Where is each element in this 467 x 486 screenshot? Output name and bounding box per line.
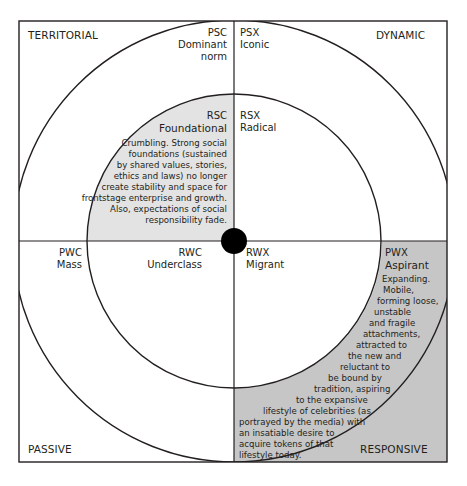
pwc-code: PWC (57, 247, 82, 259)
pwx-desc-line: portrayed by the media) with (239, 417, 365, 428)
pwx-desc-line: attracted to (356, 340, 407, 351)
pwx-desc-line: forming loose, (377, 296, 438, 307)
segment-rwx: RWX Migrant (246, 247, 284, 271)
rsc-code: RSC (159, 110, 227, 122)
pwx-desc-line: unstable (374, 307, 411, 318)
corner-responsive: RESPONSIVE (360, 443, 428, 455)
pwx-code: PWX (385, 247, 429, 259)
psc-name-1: Dominant (178, 39, 227, 51)
rsc-desc-line: Crumbling. Strong social (82, 138, 227, 149)
rsc-desc-line: ethics and laws) no longer (82, 171, 227, 182)
pwx-desc-line: reluctant to (340, 362, 390, 373)
pwx-desc-line: Expanding. (382, 274, 430, 285)
pwx-desc-line: and fragile (369, 318, 415, 329)
pwx-desc-line: be bound by (328, 373, 382, 384)
rsc-description: Crumbling. Strong social foundations (su… (82, 138, 227, 226)
corner-territorial: TERRITORIAL (28, 29, 98, 41)
rsx-name: Radical (240, 122, 276, 134)
rsc-desc-line: responsibility fade. (82, 215, 227, 226)
rwx-code: RWX (246, 247, 284, 259)
rwx-name: Migrant (246, 259, 284, 271)
pwx-desc-line: the new and (348, 351, 402, 362)
psx-code: PSX (240, 27, 269, 39)
segmentation-diagram (0, 0, 467, 486)
pwc-name: Mass (57, 259, 82, 271)
pwx-desc-line: Mobile, (383, 285, 414, 296)
psx-name: Iconic (240, 39, 269, 51)
segment-pwc: PWC Mass (57, 247, 82, 271)
rsc-desc-line: foundations (sustained (82, 149, 227, 160)
rsc-desc-line: create stability and space for (82, 182, 227, 193)
pwx-desc-line: to the expansive (296, 395, 368, 406)
segment-rsc: RSC Foundational (159, 110, 227, 134)
segment-rwc: RWC Underclass (147, 247, 202, 271)
segment-psx: PSX Iconic (240, 27, 269, 51)
rsx-code: RSX (240, 110, 276, 122)
segment-psc: PSC Dominant norm (178, 27, 227, 63)
rsc-desc-line: Also, expectations of social (82, 204, 227, 215)
pwx-desc-line: tradition, aspiring (314, 384, 390, 395)
rsc-desc-line: frontstage enterprise and growth. (82, 193, 227, 204)
rsc-name: Foundational (159, 122, 227, 134)
corner-dynamic: DYNAMIC (376, 29, 425, 41)
pwx-desc-line: acquire tokens of that (239, 439, 333, 450)
segment-pwx: PWX Aspirant (385, 247, 429, 271)
segment-rsx: RSX Radical (240, 110, 276, 134)
pwx-desc-line: attachments, (363, 329, 420, 340)
corner-passive: PASSIVE (28, 443, 72, 455)
pwx-desc-line: an insatiable desire to (239, 428, 335, 439)
center-dot (221, 228, 247, 254)
pwx-desc-line: lifestyle today. (239, 450, 301, 461)
rwc-code: RWC (147, 247, 202, 259)
rsc-desc-line: by shared values, stories, (82, 160, 227, 171)
psc-name-2: norm (178, 51, 227, 63)
pwx-desc-line: lifestyle of celebrities (as (263, 406, 371, 417)
rwc-name: Underclass (147, 259, 202, 271)
pwx-name: Aspirant (385, 259, 429, 271)
psc-code: PSC (178, 27, 227, 39)
